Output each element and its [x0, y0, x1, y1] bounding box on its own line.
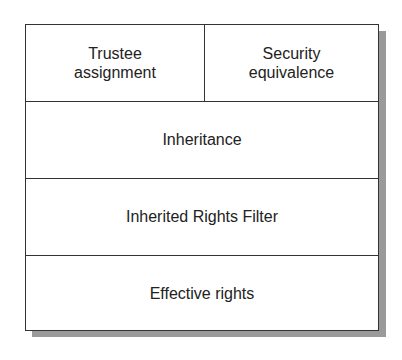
inheritance-label: Inheritance — [162, 131, 241, 149]
rights-diagram: Trustee assignment Security equivalence … — [25, 24, 379, 331]
trustee-assignment-cell: Trustee assignment — [26, 25, 204, 101]
inherited-rights-filter-label: Inherited Rights Filter — [126, 208, 278, 226]
security-equivalence-line2: equivalence — [249, 63, 334, 82]
security-equivalence-line1: Security — [249, 44, 334, 63]
inherited-rights-filter-row: Inherited Rights Filter — [26, 178, 378, 255]
effective-rights-row: Effective rights — [26, 255, 378, 331]
trustee-assignment-line1: Trustee — [74, 44, 156, 63]
trustee-assignment-line2: assignment — [74, 63, 156, 82]
security-equivalence-cell: Security equivalence — [205, 25, 378, 101]
effective-rights-label: Effective rights — [150, 285, 255, 303]
inheritance-row: Inheritance — [26, 101, 378, 178]
